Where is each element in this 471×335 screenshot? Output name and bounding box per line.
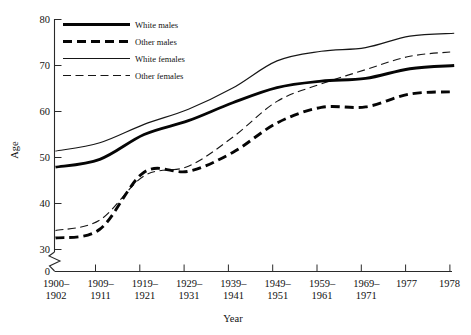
x-axis-title: Year [223,313,243,324]
x-tick-label: 1949– [265,278,292,289]
x-tick-label: 1969– [353,278,380,289]
y-tick-label: 80 [40,14,51,25]
x-tick-label: 1900– [43,278,70,289]
x-tick-label: 1941 [223,290,244,301]
y-tick-label: 0 [45,266,50,277]
series-line-other-females [56,52,455,231]
x-tick-label: 1911 [90,290,111,301]
y-axis-break-mark [49,252,60,271]
series-line-white-females [56,33,455,151]
y-tick-marks [55,20,62,250]
x-tick-label: 1951 [267,290,288,301]
legend-label-other-males: Other males [135,37,177,47]
y-tick-label: 40 [40,198,51,209]
x-tick-label: 1909– [87,278,114,289]
legend: White males Other males White females Ot… [63,20,186,81]
legend-label-white-males: White males [135,20,179,30]
y-tick-label: 60 [40,106,51,117]
legend-label-white-females: White females [135,54,186,64]
y-tick-label: 30 [40,244,51,255]
x-tick-label: 1929– [176,278,203,289]
x-tick-label: 1921 [134,290,155,301]
x-tick-marks [96,265,450,272]
x-tick-label: 1939– [220,278,247,289]
chart-canvas: 80 70 60 50 40 30 0 Age 1900– 1902 1909– [0,0,471,335]
x-tick-label: 1919– [132,278,159,289]
life-expectancy-line-chart: 80 70 60 50 40 30 0 Age 1900– 1902 1909– [0,0,471,335]
x-tick-label: 1902 [46,290,67,301]
x-tick-label: 1977 [396,278,417,289]
x-tick-label-group: 1900– 1902 1909– 1911 1919– 1921 1929– 1… [43,278,460,301]
series-line-white-males [56,66,455,168]
series-layer [56,33,455,238]
y-tick-label: 70 [40,60,51,71]
x-tick-label: 1959– [309,278,336,289]
y-tick-label: 50 [40,152,51,163]
series-line-other-males [56,92,455,238]
x-tick-label: 1931 [179,290,200,301]
y-tick-label-group: 80 70 60 50 40 30 0 [40,14,51,277]
x-tick-label: 1961 [312,290,333,301]
y-axis-title: Age [9,141,20,159]
legend-label-other-females: Other females [135,71,184,81]
x-tick-label: 1971 [356,290,377,301]
x-tick-label: 1978 [439,278,460,289]
